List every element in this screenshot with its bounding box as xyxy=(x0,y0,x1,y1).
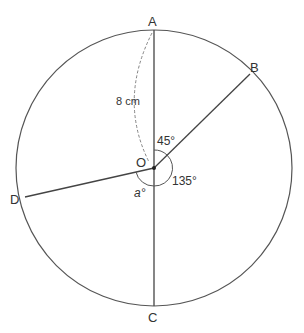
circle-diagram: A B C D O 8 cm 45° 135° a° xyxy=(0,0,304,333)
label-A: A xyxy=(148,14,157,29)
label-O: O xyxy=(136,155,146,170)
angle-arc-AOB xyxy=(154,150,167,155)
angle-arc-COD xyxy=(136,172,154,186)
label-C: C xyxy=(148,310,157,325)
angle-label-45: 45° xyxy=(157,134,175,148)
label-B: B xyxy=(250,60,259,75)
angle-label-135: 135° xyxy=(172,174,197,188)
angle-label-a: a° xyxy=(134,186,146,200)
label-D: D xyxy=(10,192,19,207)
radius-OB xyxy=(154,74,250,168)
radius-label: 8 cm xyxy=(116,95,140,107)
center-point xyxy=(152,166,156,170)
